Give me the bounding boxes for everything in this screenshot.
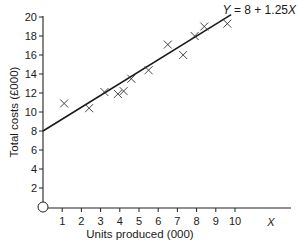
x-tick-label: 7 <box>174 215 180 227</box>
data-point-x-marker <box>145 66 153 74</box>
regression-equation: Y = 8 + 1.25X <box>223 3 297 17</box>
origin-marker <box>38 202 48 212</box>
data-point-x-marker <box>179 51 187 59</box>
y-tick-label: 2 <box>31 182 37 194</box>
y-tick-label: 4 <box>31 163 37 175</box>
axes <box>38 16 291 212</box>
x-tick-label: 3 <box>98 215 104 227</box>
y-tick-label: 20 <box>25 11 37 23</box>
x-axis-ticks: 12345678910 <box>59 208 241 227</box>
data-points <box>60 20 231 113</box>
x-tick-label: 9 <box>213 215 219 227</box>
trend-line <box>43 15 231 131</box>
x-axis-title: Units produced (000) <box>86 228 194 240</box>
y-tick-label: 18 <box>25 30 37 42</box>
x-tick-label: 10 <box>229 215 241 227</box>
y-tick-label: 14 <box>25 68 37 80</box>
data-point-x-marker <box>223 20 231 28</box>
data-point-x-marker <box>200 23 208 31</box>
x-tick-label: 8 <box>194 215 200 227</box>
scatter-chart: 2468101214161820 12345678910 Y = 8 + 1.2… <box>0 0 298 247</box>
y-tick-label: 16 <box>25 49 37 61</box>
y-axis-title: Total costs (£000) <box>8 66 20 157</box>
y-tick-label: 8 <box>31 125 37 137</box>
data-point-x-marker <box>60 99 68 107</box>
y-tick-label: 12 <box>25 87 37 99</box>
data-point-x-marker <box>85 104 93 112</box>
x-tick-label: 2 <box>78 215 84 227</box>
data-point-x-marker <box>164 41 172 49</box>
regression-line <box>43 15 231 131</box>
x-axis-symbol: X <box>266 216 275 228</box>
x-tick-label: 4 <box>117 215 123 227</box>
y-axis-ticks: 2468101214161820 <box>25 11 43 194</box>
y-tick-label: 6 <box>31 144 37 156</box>
y-tick-label: 10 <box>25 106 37 118</box>
x-tick-label: 5 <box>136 215 142 227</box>
x-tick-label: 1 <box>59 215 65 227</box>
x-tick-label: 6 <box>155 215 161 227</box>
